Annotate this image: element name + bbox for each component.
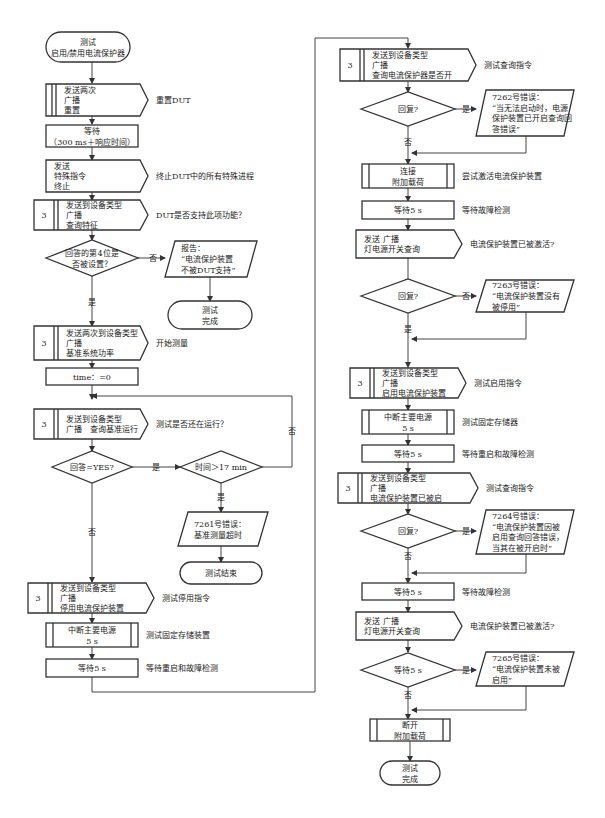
terminal-node <box>46 32 130 62</box>
node-text: 当其在被开启时” <box>492 543 552 553</box>
node-text: 5 s <box>86 637 98 646</box>
annotation-text: 测试启用指令 <box>474 378 522 388</box>
branch-label: 否 <box>462 292 470 301</box>
node-text: 被停用” <box>492 302 520 312</box>
node-text: 等待5 s <box>394 587 422 597</box>
annotation-text: 终止DUT中的所有特殊进程 <box>156 171 255 181</box>
node-text: 测试 <box>80 37 96 47</box>
node-text: 电流保护装置已被启 <box>370 493 442 503</box>
annotation-text: 电流保护装置已被激活? <box>470 621 554 631</box>
annotation-text: 电流保护装置已被激活? <box>470 239 554 249</box>
node-text: 测试结束 <box>205 568 237 578</box>
branch-label: 否 <box>88 528 96 537</box>
node-text: 完成 <box>202 316 218 326</box>
node-text: 发送到设备类型 <box>66 200 122 210</box>
annotation-text: 重置DUT <box>156 95 191 105</box>
node-text: 保护装置已开启查询回 <box>492 113 572 123</box>
flow-arrow <box>412 136 526 153</box>
flowchart: 测试启用/禁用电流保护器发送两次广播重置重置DUT等待（300 ms＋响应时间）… <box>0 0 605 818</box>
device-type-number: 3 <box>347 61 352 70</box>
node-text: 7263号错误： <box>492 280 544 290</box>
node-text: 等待5 s <box>394 665 422 675</box>
annotation-text: 测试停用指令 <box>162 593 210 603</box>
branch-label: 否 <box>288 427 296 436</box>
node-text: 7262号错误： <box>492 92 544 102</box>
node-text: 发送到设备类型 <box>370 473 426 483</box>
node-text: 广播 <box>372 60 388 70</box>
annotation-text: 尝试激活电流保护装置 <box>462 171 542 181</box>
node-text: 发送 <box>54 161 70 171</box>
node-text: “电流保护装置未被 <box>492 664 560 674</box>
annotation-text: DUT是否支持此项功能？ <box>156 210 247 220</box>
device-type-number: 3 <box>357 379 362 388</box>
node-text: 测试 <box>202 305 218 315</box>
annotation-text: 测试查询指令 <box>486 483 534 493</box>
node-text: 查询特征 <box>66 220 98 230</box>
node-text: 灯电源开关查询 <box>364 626 420 636</box>
node-text: 等待5 s <box>394 205 422 215</box>
node-text: 广播 <box>64 95 80 105</box>
node-text: 特殊指令 <box>54 171 86 181</box>
branch-label: 否 <box>404 552 412 561</box>
node-text: 时间＞17 min <box>195 462 247 472</box>
branch-label: 是 <box>462 666 470 675</box>
node-text: 等待5 s <box>394 449 422 459</box>
node-text: 连接 <box>400 166 416 176</box>
branch-label: 否 <box>149 254 157 263</box>
node-text: 查询电流保护器是否开 <box>372 70 452 80</box>
node-text: （300 ms＋响应时间） <box>49 137 135 147</box>
node-text: 发送到设备类型 <box>60 583 116 593</box>
node-text: 基准测量超时 <box>194 530 242 540</box>
node-text: 发送 广播 <box>364 616 399 626</box>
annotation-text: 测试是否还在运行？ <box>156 419 228 429</box>
node-text: 报告： <box>181 243 205 253</box>
flow-arrow <box>412 686 526 710</box>
node-text: 回答=YES? <box>70 462 114 472</box>
node-text: 完成 <box>402 774 418 784</box>
flow-nodes: 测试启用/禁用电流保护器发送两次广播重置重置DUT等待（300 ms＋响应时间）… <box>28 32 574 785</box>
branch-label: 否 <box>404 138 412 147</box>
node-text: 中断主要电源 <box>384 412 432 422</box>
node-text: 答错误” <box>492 124 520 134</box>
node-text: 发送两次 <box>64 85 96 95</box>
node-text: 7261号错误： <box>194 519 246 529</box>
node-text: 广播 <box>60 593 76 603</box>
device-type-number: 3 <box>41 211 46 220</box>
node-text: 重置 <box>64 105 80 115</box>
device-type-number: 3 <box>41 339 46 348</box>
annotation-text: 等待重启和故障检测 <box>146 663 218 673</box>
node-text: 等待 <box>84 126 100 136</box>
branch-label: 否 <box>404 691 412 700</box>
annotation-text: 测试固定存储器 <box>462 417 518 427</box>
branch-label: 是 <box>462 527 470 536</box>
node-text: 广播 <box>370 483 386 493</box>
annotation-text: 等待重启和故障检测 <box>462 449 534 459</box>
node-text: 7264号错误： <box>492 511 544 521</box>
node-text: 广播 查询基准运行 <box>66 424 138 434</box>
branch-label: 是 <box>152 463 160 472</box>
node-text: 发送到设备类型 <box>372 50 428 60</box>
node-text: 回复? <box>398 104 418 114</box>
node-text: 启用” <box>492 675 512 685</box>
node-text: “当无法启动时，电源 <box>492 103 568 113</box>
node-text: 基准系统功率 <box>66 348 114 358</box>
branch-label: 是 <box>88 298 96 307</box>
annotation-text: 等待故障检测 <box>462 587 510 597</box>
node-text: 发送到设备类型 <box>66 414 122 424</box>
node-text: 断开 <box>402 720 418 730</box>
node-text: 回复? <box>398 526 418 536</box>
command-node <box>46 84 148 116</box>
node-text: time：=0 <box>73 373 111 382</box>
node-text: 发送 广播 <box>364 234 399 244</box>
branch-label: 是 <box>217 493 225 502</box>
node-text: 发送到设备类型 <box>382 368 438 378</box>
node-text: 广播 <box>66 338 82 348</box>
node-text: 启用/禁用电流保护器 <box>51 48 126 58</box>
annotation-text: 等待故障检测 <box>462 205 510 215</box>
annotation-text: 测试查询指令 <box>484 60 532 70</box>
node-text: “电流保护装置 <box>181 254 233 264</box>
node-text: 7265号错误： <box>492 653 544 663</box>
node-text: 附加载荷 <box>394 731 426 741</box>
node-text: “电流保护装置没有 <box>492 291 560 301</box>
connector-lines <box>92 38 526 761</box>
